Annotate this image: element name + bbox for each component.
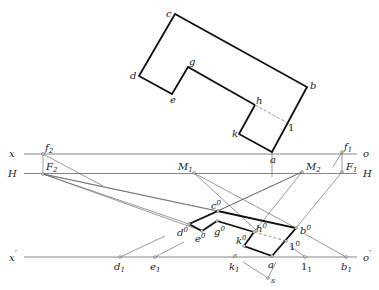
label-h0: h0 — [256, 222, 267, 234]
F1-b0-ray — [296, 172, 342, 228]
label-1: 1 — [288, 122, 294, 133]
label-g: g — [189, 56, 195, 67]
label-e: e — [170, 94, 176, 105]
label-b: b — [310, 80, 316, 91]
label-F2: F2 — [45, 161, 58, 174]
label-k: k — [232, 128, 238, 139]
construction-points — [42, 151, 348, 280]
label-k1: k1 — [229, 261, 240, 274]
label-e1: e1 — [150, 261, 160, 274]
label-F1: F1 — [345, 161, 357, 174]
label-M2: M2 — [305, 161, 321, 174]
plan-figure-outline — [139, 14, 307, 152]
plan-h-1-hidden-edge — [255, 105, 286, 122]
label-a: a — [270, 154, 276, 165]
label-c: c — [166, 8, 172, 19]
label-H-left: H — [7, 168, 17, 179]
label-f1: f1 — [343, 141, 352, 154]
label-b0: b0 — [300, 224, 311, 236]
label-d0: d0 — [177, 226, 188, 238]
label-x-prime: x′ — [9, 248, 18, 263]
label-s: s — [271, 276, 275, 285]
label-d1: d1 — [114, 261, 125, 274]
label-a-ground: a — [268, 259, 274, 270]
label-M1: M1 — [177, 161, 193, 174]
label-h: h — [256, 95, 262, 106]
label-o: o — [363, 148, 369, 159]
label-e0: e0 — [195, 232, 206, 244]
label-g0: g0 — [214, 225, 225, 237]
label-o-prime: o′ — [363, 248, 372, 263]
label-H-right: H — [362, 168, 372, 179]
M2-rays — [189, 172, 302, 232]
label-d: d — [130, 70, 136, 81]
perspective-diagram: c b d e g h k 1 a x o H H x′ o′ f2 F2 M1… — [0, 0, 379, 290]
label-b1: b1 — [341, 261, 352, 274]
label-f2: f2 — [44, 142, 54, 155]
label-1-0: 10 — [289, 240, 300, 252]
label-1-1: 11 — [301, 261, 312, 274]
label-c0: c0 — [211, 199, 222, 211]
diagram-canvas: c b d e g h k 1 a x o H H x′ o′ f2 F2 M1… — [0, 0, 379, 290]
label-x: x — [9, 148, 15, 159]
